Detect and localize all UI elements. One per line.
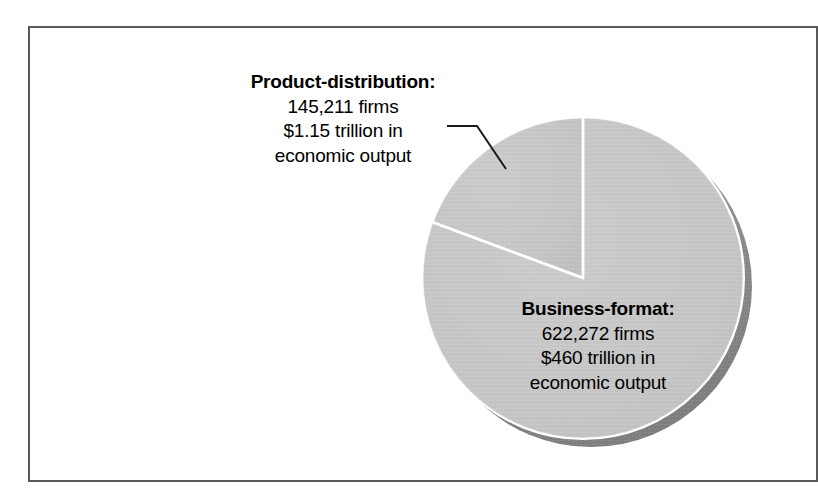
label-business-format-title: Business-format: [478, 297, 718, 322]
label-product-distribution: Product-distribution: 145,211 firms $1.1… [232, 70, 454, 169]
label-product-distribution-output-cont: economic output [232, 144, 454, 169]
label-business-format-output-cont: economic output [478, 371, 718, 396]
label-business-format: Business-format: 622,272 firms $460 tril… [478, 297, 718, 396]
label-product-distribution-output: $1.15 trillion in [232, 119, 454, 144]
label-business-format-firms: 622,272 firms [478, 322, 718, 347]
label-product-distribution-title: Product-distribution: [232, 70, 454, 95]
label-product-distribution-firms: 145,211 firms [232, 95, 454, 120]
label-business-format-output: $460 trillion in [478, 346, 718, 371]
